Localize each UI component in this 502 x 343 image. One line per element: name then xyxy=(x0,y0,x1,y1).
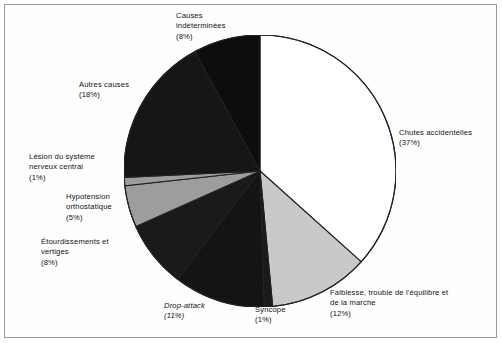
pie-chart-figure: Causes indéterminées (8%) Autres causes … xyxy=(0,0,502,343)
pie-svg xyxy=(124,35,396,307)
pie-label-faiblesse-trouble-equilibre: Faiblesse, trouble de l'équilibre et de … xyxy=(330,288,490,319)
pie-label-chutes-accidentelles: Chutes accidentelles (37%) xyxy=(399,128,497,149)
pie-label-syncope: Syncope (1%) xyxy=(255,305,319,326)
pie-chart-graphic xyxy=(124,35,396,307)
pie-label-hypotension-orthostatique: Hypotension orthostatique (5%) xyxy=(66,192,158,223)
pie-label-lesion-systeme-nerveux-central: Lésion du système nerveux central (1%) xyxy=(29,152,147,183)
pie-label-etourdissements-et-vertiges: Étourdissements et vertiges (8%) xyxy=(41,237,149,268)
pie-label-autres-causes: Autres causes (18%) xyxy=(79,80,171,101)
pie-label-drop-attack: Drop-attack (11%) xyxy=(164,301,254,322)
pie-label-causes-indeterminees: Causes indéterminées (8%) xyxy=(176,11,272,42)
